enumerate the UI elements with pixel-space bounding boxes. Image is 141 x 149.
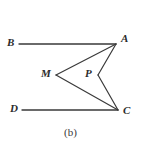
geometry-figure: B A M P D C (b) <box>0 0 141 149</box>
vertex-label-b: B <box>7 37 14 48</box>
vertex-label-a: A <box>121 33 128 44</box>
vertex-label-c: C <box>123 105 130 116</box>
vertex-label-m: M <box>41 68 51 79</box>
vertex-label-d: D <box>10 103 18 114</box>
figure-caption: (b) <box>0 126 141 138</box>
segment-MC <box>56 75 118 110</box>
vertex-label-p: P <box>85 68 92 79</box>
